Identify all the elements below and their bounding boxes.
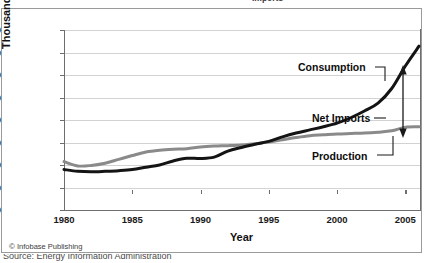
y-tick-label: 5,000 xyxy=(0,92,1,103)
top-text-fragment: Imports xyxy=(252,0,283,3)
annotation-production: Production xyxy=(312,150,367,162)
publisher-name: Infobase Publishing xyxy=(17,242,82,251)
cropped-top-text: Imports xyxy=(0,0,426,7)
bottom-caption-fragment: Source: Energy Information Administratio… xyxy=(3,254,172,261)
consumption-leader-line xyxy=(375,67,385,81)
cropped-bottom-caption: Source: Energy Information Administratio… xyxy=(0,254,426,263)
annotation-consumption: Consumption xyxy=(298,61,366,73)
plot-wrapper: Thousand Barrels per Day Year 01,0002,00… xyxy=(2,9,423,254)
y-tick-label: 7,000 xyxy=(0,47,1,58)
y-tick-label: 8,000 xyxy=(0,24,1,35)
net-imports-arrowhead-down xyxy=(399,129,406,139)
y-tick-label: 0 xyxy=(0,204,1,215)
y-tick-label: 4,000 xyxy=(0,114,1,125)
production-leader-line xyxy=(377,136,393,155)
y-tick-label: 3,000 xyxy=(0,137,1,148)
y-tick-label: 6,000 xyxy=(0,69,1,80)
y-tick-label: 1,000 xyxy=(0,182,1,193)
annotation-net-imports: Net Imports xyxy=(312,112,370,124)
chart-figure-frame: Thousand Barrels per Day Year 01,0002,00… xyxy=(1,8,422,253)
series-lines xyxy=(2,9,423,254)
y-tick-label: 2,000 xyxy=(0,159,1,170)
copyright-credit: © Infobase Publishing xyxy=(9,242,82,251)
copyright-symbol: © xyxy=(9,242,15,251)
